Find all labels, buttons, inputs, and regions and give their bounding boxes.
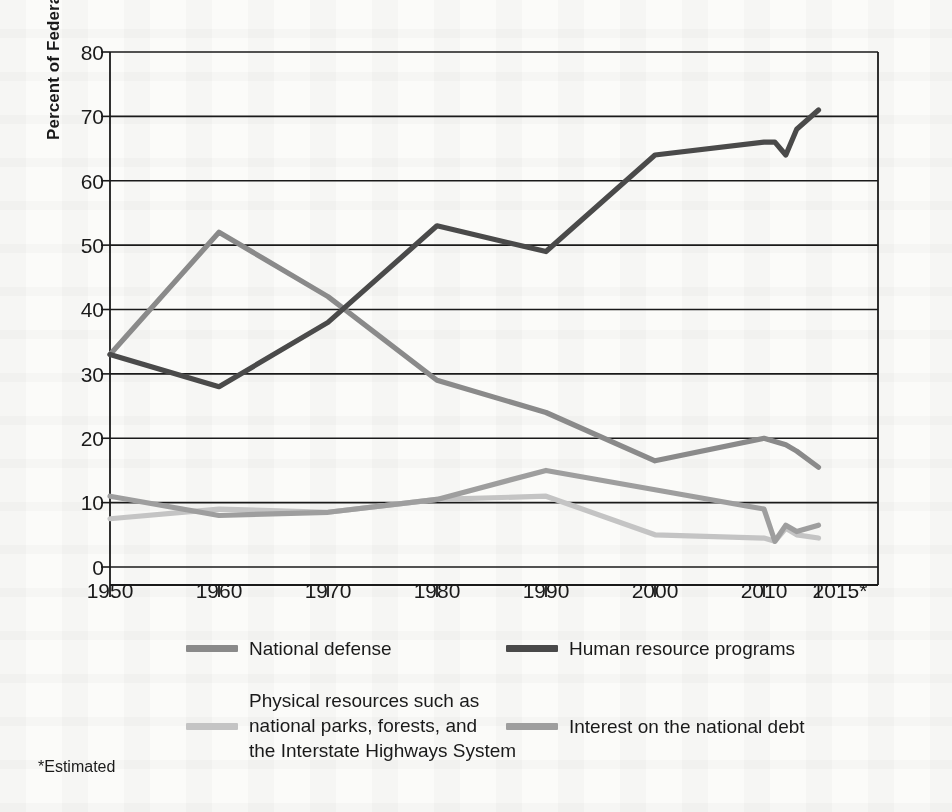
legend-swatch-national-defense	[186, 645, 238, 652]
legend-label-human-resources: Human resource programs	[569, 636, 795, 661]
x-tick-1960: 1960	[196, 580, 243, 601]
chart-figure: Percent of Federal Budget 0 10 20 30 40 …	[0, 0, 952, 812]
x-tick-2000: 2000	[632, 580, 679, 601]
legend-label-interest-debt: Interest on the national debt	[569, 688, 805, 739]
legend-item-physical-resources[interactable]: Physical resources such as national park…	[186, 688, 516, 763]
footnote-estimated: *Estimated	[38, 758, 115, 776]
legend-item-interest-debt[interactable]: Interest on the national debt	[506, 688, 805, 739]
legend-item-national-defense[interactable]: National defense	[186, 636, 392, 661]
chart-legend: National defense Human resource programs…	[0, 624, 952, 754]
x-tick-1990: 1990	[523, 580, 570, 601]
x-tick-1970: 1970	[305, 580, 352, 601]
x-tick-1980: 1980	[414, 580, 461, 601]
legend-label-physical-resources: Physical resources such as national park…	[249, 688, 516, 763]
x-tick-1950: 1950	[87, 580, 134, 601]
line-chart-svg	[0, 0, 952, 600]
legend-swatch-human-resources	[506, 645, 558, 652]
legend-swatch-interest-debt	[506, 723, 558, 730]
legend-item-human-resources[interactable]: Human resource programs	[506, 636, 795, 661]
legend-label-national-defense: National defense	[249, 636, 392, 661]
x-tick-2010: 2010	[741, 580, 788, 601]
x-tick-2015: 2015*	[813, 580, 868, 601]
legend-swatch-physical-resources	[186, 723, 238, 730]
plot-area: Percent of Federal Budget 0 10 20 30 40 …	[0, 0, 952, 600]
